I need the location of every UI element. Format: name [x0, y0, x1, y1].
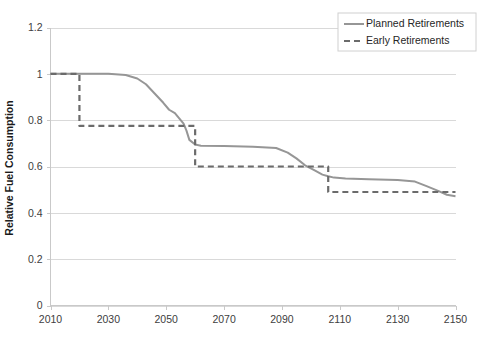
series-line-early-retirements	[51, 74, 456, 192]
x-tick-label: 2010	[39, 313, 63, 325]
x-tick-label: 2110	[328, 313, 351, 325]
y-tick-label: 0	[37, 299, 43, 311]
series-line-planned-retirements	[51, 74, 456, 196]
x-tick-label: 2130	[386, 313, 410, 325]
x-axis-tick-labels: 20102030205020702090211021302150	[39, 313, 468, 325]
legend-label-early-retirements: Early Retirements	[366, 34, 449, 46]
data-series-group	[51, 74, 456, 196]
relative-fuel-consumption-line-chart: 00.20.40.60.811.2 2010203020502070209021…	[0, 0, 481, 338]
x-tick-label: 2090	[270, 313, 294, 325]
x-tick-label: 2050	[155, 313, 179, 325]
x-tick-label: 2070	[212, 313, 236, 325]
y-tick-label: 0.4	[28, 207, 43, 219]
y-tick-label: 1	[37, 68, 43, 80]
y-tick-label: 0.2	[28, 253, 43, 265]
x-tick-label: 2150	[444, 313, 468, 325]
y-axis-title: Relative Fuel Consumption	[3, 100, 15, 235]
legend-label-planned-retirements: Planned Retirements	[366, 17, 464, 29]
x-tick-label: 2030	[97, 313, 121, 325]
y-tick-label: 1.2	[28, 21, 43, 33]
chart-legend: Planned Retirements Early Retirements	[338, 13, 476, 51]
chart-container: 00.20.40.60.811.2 2010203020502070209021…	[0, 0, 481, 338]
axis-tickmarks	[47, 29, 457, 310]
y-tick-label: 0.8	[28, 114, 43, 126]
y-tick-label: 0.6	[28, 160, 43, 172]
y-axis-tick-labels: 00.20.40.60.811.2	[28, 21, 43, 311]
